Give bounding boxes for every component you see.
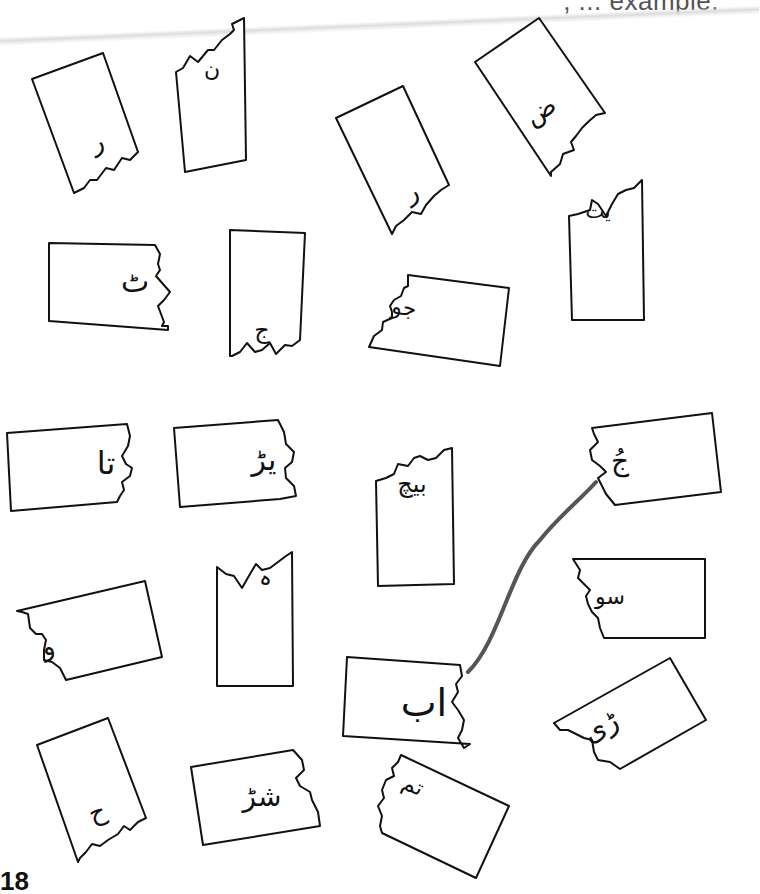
card-letter: جو xyxy=(389,293,418,321)
card-c10[interactable]: یڑ xyxy=(174,420,296,507)
card-letter: تا xyxy=(97,444,116,482)
card-letter: یڑ xyxy=(250,442,277,477)
card-c7[interactable]: جو xyxy=(369,275,509,366)
card-c4[interactable]: ض xyxy=(475,18,605,176)
card-c6[interactable]: ج xyxy=(230,230,305,356)
card-c2[interactable]: ن xyxy=(176,18,246,172)
card-c8[interactable]: یت xyxy=(569,180,644,320)
card-c11[interactable]: بیچ xyxy=(376,448,454,586)
card-c3[interactable]: ر xyxy=(336,86,449,234)
match-connector-line xyxy=(468,482,596,672)
card-c17[interactable]: ڑی xyxy=(554,658,706,769)
card-letter: یت xyxy=(585,199,610,223)
card-letter: بیچ xyxy=(397,470,426,498)
card-c16[interactable]: اب xyxy=(343,657,470,748)
card-c1[interactable]: ر xyxy=(32,53,138,193)
card-c15[interactable]: سو xyxy=(573,559,705,638)
card-letter: جُ xyxy=(611,444,630,478)
page-number: 18 xyxy=(0,866,29,894)
card-c18[interactable]: ح xyxy=(37,718,146,862)
card-letter: ن xyxy=(204,56,220,81)
card-letter: اب xyxy=(401,681,447,725)
card-letter: ج xyxy=(254,316,270,344)
card-c20[interactable]: تم xyxy=(378,755,509,878)
card-letter: شڑ xyxy=(241,780,282,813)
card-c12[interactable]: جُ xyxy=(590,413,721,505)
card-letter: ٹ xyxy=(121,264,149,299)
card-c14[interactable]: ہ xyxy=(217,552,293,686)
card-c9[interactable]: تا xyxy=(7,424,132,511)
card-letter: سو xyxy=(594,584,625,609)
card-c13[interactable]: و xyxy=(17,581,162,680)
card-letter: ہ xyxy=(259,565,272,590)
card-c19[interactable]: شڑ xyxy=(191,750,320,845)
card-c5[interactable]: ٹ xyxy=(49,243,170,330)
